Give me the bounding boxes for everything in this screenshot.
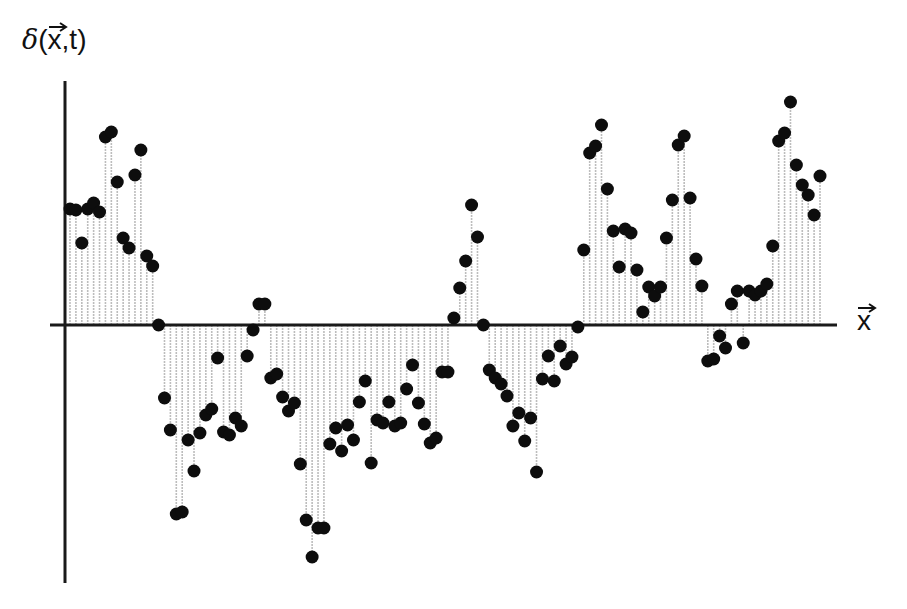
data-point xyxy=(300,514,313,527)
data-point xyxy=(654,281,667,294)
data-point xyxy=(790,159,803,172)
data-point xyxy=(601,183,614,196)
data-point xyxy=(447,312,460,325)
data-point xyxy=(530,466,543,479)
data-point xyxy=(589,140,602,153)
data-point xyxy=(613,261,626,274)
data-point xyxy=(725,298,738,311)
data-point xyxy=(542,350,555,363)
data-point xyxy=(247,324,260,337)
data-point xyxy=(306,551,319,564)
data-point xyxy=(111,176,124,189)
data-point xyxy=(430,432,443,445)
data-points xyxy=(64,96,827,564)
data-point xyxy=(548,375,561,388)
data-point xyxy=(400,383,413,396)
data-point xyxy=(317,522,330,535)
data-point xyxy=(164,424,177,437)
data-point xyxy=(128,169,141,182)
data-point xyxy=(241,350,254,363)
vector-x: x xyxy=(857,305,871,337)
data-point xyxy=(294,458,307,471)
data-point xyxy=(365,457,378,470)
vector-arrow-icon xyxy=(48,22,68,32)
data-point xyxy=(713,330,726,343)
data-point xyxy=(188,465,201,478)
data-point xyxy=(418,418,431,431)
data-point xyxy=(123,242,136,255)
data-point xyxy=(518,435,531,448)
data-point xyxy=(536,373,549,386)
data-point xyxy=(329,422,342,435)
data-point xyxy=(607,225,620,238)
data-point xyxy=(695,280,708,293)
data-point xyxy=(335,445,348,458)
data-point xyxy=(689,253,702,266)
data-point xyxy=(666,194,679,207)
x-axis-label: x xyxy=(857,305,871,337)
stems xyxy=(70,102,820,557)
data-point xyxy=(571,321,584,334)
data-point xyxy=(146,260,159,273)
data-point xyxy=(465,199,478,212)
data-point xyxy=(760,278,773,291)
data-point xyxy=(353,396,366,409)
data-point xyxy=(176,506,189,519)
data-point xyxy=(719,342,732,355)
data-point xyxy=(707,353,720,366)
data-point xyxy=(471,231,484,244)
data-point xyxy=(459,255,472,268)
data-point xyxy=(501,390,514,403)
data-point xyxy=(737,337,750,350)
data-point xyxy=(495,378,508,391)
data-point xyxy=(565,351,578,364)
data-point xyxy=(630,264,643,277)
data-point xyxy=(766,240,779,253)
data-point xyxy=(270,368,283,381)
data-point xyxy=(223,429,236,442)
data-point xyxy=(205,403,218,416)
data-point xyxy=(376,417,389,430)
data-point xyxy=(808,209,821,222)
data-point xyxy=(441,366,454,379)
data-point xyxy=(678,130,691,143)
data-point xyxy=(235,420,248,433)
data-point xyxy=(412,397,425,410)
data-point xyxy=(406,359,419,372)
data-point xyxy=(512,407,525,420)
data-point xyxy=(105,126,118,139)
data-point xyxy=(182,434,195,447)
data-point xyxy=(554,340,567,353)
data-point xyxy=(93,206,106,219)
data-point xyxy=(152,319,165,332)
data-point xyxy=(636,306,649,319)
data-point xyxy=(288,397,301,410)
delta-symbol: δ xyxy=(22,24,38,55)
vector-arrow-icon xyxy=(857,303,877,313)
data-point xyxy=(784,96,797,109)
data-point xyxy=(69,204,82,217)
vector-x: x xyxy=(48,24,62,56)
stem-plot xyxy=(0,0,907,609)
data-point xyxy=(211,352,224,365)
data-point xyxy=(382,396,395,409)
data-point xyxy=(625,227,638,240)
data-point xyxy=(684,192,697,205)
data-point xyxy=(778,127,791,140)
data-point xyxy=(524,412,537,425)
y-axis-label: δ(x,t) xyxy=(22,24,86,56)
data-point xyxy=(158,392,171,405)
data-point xyxy=(660,232,673,245)
data-point xyxy=(731,285,744,298)
data-point xyxy=(477,319,490,332)
data-point xyxy=(347,434,360,447)
data-point xyxy=(193,427,206,440)
data-point xyxy=(394,417,407,430)
data-point xyxy=(258,298,271,311)
data-point xyxy=(341,419,354,432)
data-point xyxy=(506,420,519,433)
data-point xyxy=(595,119,608,132)
data-point xyxy=(802,189,815,202)
data-point xyxy=(134,144,147,157)
data-point xyxy=(814,170,827,183)
